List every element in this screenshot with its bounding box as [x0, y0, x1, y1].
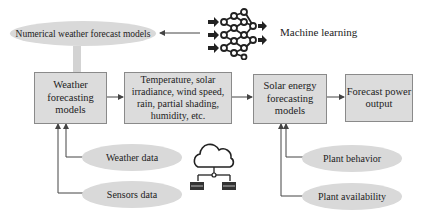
variables-label: Temperature, solar irradiance, wind spee… [125, 74, 231, 122]
weather-models-label: Weather forecasting models [35, 79, 106, 117]
node-plant-behavior: Plant behavior [302, 145, 402, 172]
node-sensors-data: Sensors data [82, 181, 182, 208]
sensors-data-label: Sensors data [107, 189, 157, 200]
node-weather-forecasting-models: Weather forecasting models [34, 72, 107, 124]
solar-models-label: Solar energy forecasting models [254, 80, 326, 118]
nwp-label: Numerical weather forecast models [16, 29, 151, 39]
node-weather-variables: Temperature, solar irradiance, wind spee… [124, 72, 232, 124]
weather-data-label: Weather data [106, 152, 158, 163]
neural-network-icon [206, 8, 274, 60]
node-solar-energy-forecasting-models: Solar energy forecasting models [253, 74, 327, 124]
node-weather-data: Weather data [82, 144, 182, 171]
output-label: Forecast power output [346, 86, 412, 111]
node-plant-availability: Plant availability [302, 183, 402, 210]
cloud-servers-icon [188, 141, 240, 193]
plant-behavior-label: Plant behavior [323, 153, 381, 164]
node-numerical-weather-forecast-models: Numerical weather forecast models [10, 21, 156, 46]
machine-learning-label: Machine learning [280, 26, 357, 38]
plant-availability-label: Plant availability [318, 191, 386, 202]
node-forecast-power-output: Forecast power output [345, 74, 413, 122]
